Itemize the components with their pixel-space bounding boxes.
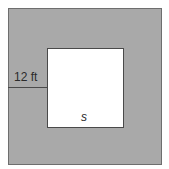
inner-side-label: s bbox=[81, 110, 87, 124]
border-width-measure-line bbox=[8, 87, 47, 88]
border-width-label: 12 ft bbox=[14, 70, 37, 84]
